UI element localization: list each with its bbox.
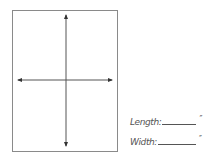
length-label: Length: [130,117,161,127]
diagram-canvas: Length:″ Width:″ [0,0,208,160]
inch-mark: ″ [199,135,202,144]
length-blank-line[interactable] [162,116,196,125]
width-blank-line[interactable] [158,136,196,145]
width-field: Width:″ [130,136,202,147]
length-field: Length:″ [130,116,202,127]
inch-mark: ″ [199,115,202,124]
width-label: Width: [130,137,157,147]
